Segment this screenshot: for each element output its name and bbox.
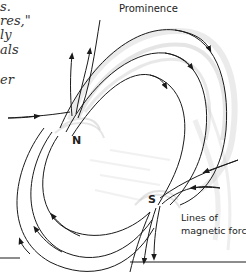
field-line-left-incoming bbox=[8, 112, 70, 118]
lines-of-force-label: Lines of magnetic force bbox=[181, 211, 246, 237]
solar-prominence-diagram: s. res," ly als er bbox=[0, 0, 246, 272]
field-loop-lower-outer bbox=[17, 128, 154, 271]
prominence-label: Prominence bbox=[119, 3, 178, 14]
field-line-down-2 bbox=[154, 206, 160, 258]
lines-of-force-label-line2: magnetic force bbox=[181, 224, 246, 237]
south-pole-label: S bbox=[148, 193, 156, 206]
field-loop-inner bbox=[72, 74, 185, 205]
field-loop-lower-inner bbox=[43, 136, 150, 235]
field-loop-lower-middle bbox=[31, 132, 152, 258]
lines-of-force-label-line1: Lines of bbox=[181, 211, 246, 224]
field-line-right-incoming-2 bbox=[162, 187, 220, 204]
north-pole-label: N bbox=[72, 134, 81, 147]
